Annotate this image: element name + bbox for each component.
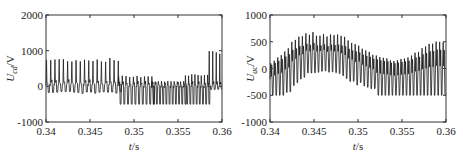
x-tick-label: 0.36: [436, 125, 456, 137]
x-axis-label: t/s: [129, 140, 139, 152]
waveform-u-cd: [46, 51, 221, 104]
x-tick-label: 0.345: [78, 125, 103, 137]
y-tick-label: -1000: [241, 116, 267, 128]
chart-figure: 0.340.3450.350.3550.36-1000010002000t/sU…: [0, 0, 463, 157]
x-axis-label: t/s: [353, 140, 363, 152]
y-tick-label: 1000: [245, 9, 268, 21]
x-tick-label: 0.35: [348, 125, 368, 137]
left-plot-ucd: 0.340.3450.350.3550.36-1000010002000t/sU…: [4, 9, 232, 152]
y-tick-label: -500: [247, 89, 268, 101]
y-axis-label: Ucd/V: [4, 55, 19, 82]
x-tick-label: 0.345: [302, 125, 327, 137]
plot-frame: [46, 15, 222, 122]
y-tick-label: 0: [38, 80, 44, 92]
y-tick-label: 500: [251, 36, 268, 48]
y-tick-label: 0: [262, 63, 268, 75]
y-tick-label: -1000: [17, 116, 43, 128]
x-tick-label: 0.35: [124, 125, 144, 137]
x-tick-label: 0.36: [212, 125, 232, 137]
y-tick-label: 1000: [21, 45, 44, 57]
y-axis-label: Uac/V: [244, 55, 259, 82]
waveform-u-ac: [270, 32, 445, 95]
y-tick-label: 2000: [21, 9, 44, 21]
x-tick-label: 0.355: [166, 125, 191, 137]
right-plot-uac: 0.340.3450.350.3550.36-1000-50005001000t…: [241, 9, 456, 152]
x-tick-label: 0.355: [390, 125, 415, 137]
